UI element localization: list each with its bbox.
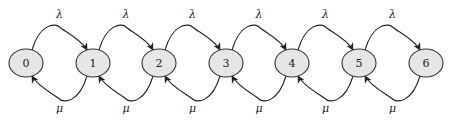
state-node: 1 — [76, 49, 110, 77]
state-node: 6 — [409, 49, 443, 77]
state-node: 2 — [142, 49, 176, 77]
service-rate-label: μ — [255, 102, 262, 115]
state-node-label: 4 — [289, 57, 296, 70]
state-node-label: 2 — [156, 57, 163, 70]
forward-transition-arrow — [32, 25, 87, 50]
forward-transition-arrow — [298, 25, 353, 50]
state-node: 0 — [9, 49, 43, 77]
nodes-layer: 0123456 — [9, 49, 443, 77]
service-rate-label: μ — [322, 102, 329, 115]
backward-transition-arrow — [298, 76, 353, 101]
state-node: 3 — [209, 49, 243, 77]
backward-transition-arrow — [232, 76, 286, 101]
forward-transition-arrow — [365, 25, 420, 50]
birth-death-diagram: λλλλλλμμμμμμ 0123456 — [0, 0, 457, 124]
backward-transition-arrow — [32, 76, 87, 101]
arrival-rate-label: λ — [255, 8, 263, 21]
forward-transition-arrow — [232, 25, 286, 50]
state-node-label: 6 — [423, 57, 430, 70]
state-node: 5 — [342, 49, 376, 77]
state-node-label: 0 — [23, 57, 30, 70]
arrival-rate-label: λ — [55, 8, 63, 21]
forward-transition-arrow — [165, 25, 220, 50]
state-node-label: 5 — [356, 57, 363, 70]
state-node-label: 1 — [90, 57, 97, 70]
arrival-rate-label: λ — [122, 8, 130, 21]
forward-transition-arrow — [99, 25, 153, 50]
service-rate-label: μ — [189, 102, 196, 115]
arrival-rate-label: λ — [188, 8, 196, 21]
service-rate-label: μ — [389, 102, 396, 115]
backward-transition-arrow — [99, 76, 153, 101]
state-node-label: 3 — [223, 57, 230, 70]
arrival-rate-label: λ — [321, 8, 329, 21]
backward-transition-arrow — [165, 76, 220, 101]
arrival-rate-label: λ — [388, 8, 396, 21]
service-rate-label: μ — [56, 102, 63, 115]
state-node: 4 — [275, 49, 309, 77]
service-rate-label: μ — [122, 102, 129, 115]
backward-transition-arrow — [365, 76, 420, 101]
